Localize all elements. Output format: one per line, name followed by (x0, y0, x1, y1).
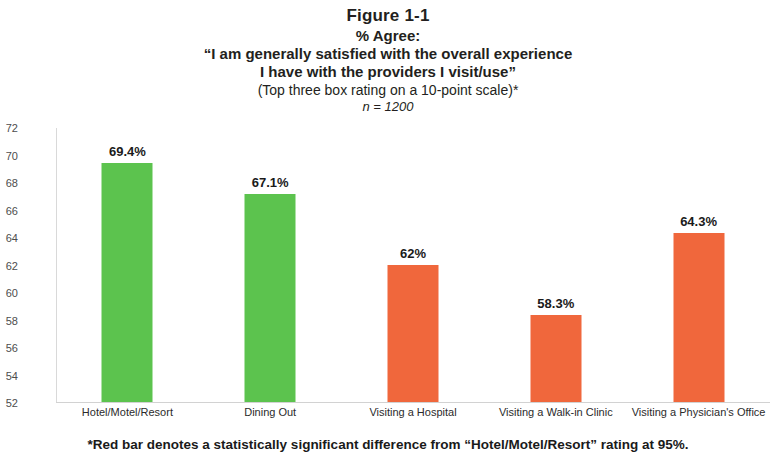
bar-slot: 67.1% (199, 127, 342, 402)
bar-column: 67.1% (199, 127, 342, 402)
x-axis-category-label: Dining Out (190, 406, 350, 418)
figure-subtitle: % Agree: (0, 27, 776, 45)
bar[interactable] (102, 163, 153, 402)
chart-footnote: *Red bar denotes a statistically signifi… (0, 437, 776, 452)
y-axis-tick-label: 56 (6, 342, 18, 354)
figure-sample-size: n = 1200 (0, 99, 776, 115)
figure-method-note: (Top three box rating on a 10-point scal… (0, 82, 776, 99)
x-axis-category-label: Hotel/Motel/Resort (47, 406, 207, 418)
bar[interactable] (530, 315, 581, 402)
y-axis: 5254565860626466687072 (0, 128, 46, 413)
y-axis-tick-label: 62 (6, 260, 18, 272)
y-axis-tick-label: 58 (6, 315, 18, 327)
chart-plot-area: 5254565860626466687072 69.4%67.1%62%58.3… (0, 128, 776, 413)
bar-value-label: 58.3% (537, 296, 574, 311)
bar-value-label: 62% (400, 246, 426, 261)
bar-slot: 64.3% (627, 127, 770, 402)
y-axis-tick-label: 68 (6, 177, 18, 189)
bar-value-label: 67.1% (252, 175, 289, 190)
figure-quote-line-2: I have with the providers I visit/use” (0, 63, 776, 81)
bar-slot: 69.4% (56, 127, 199, 402)
bar[interactable] (245, 194, 296, 402)
bar-value-label: 69.4% (109, 144, 146, 159)
y-axis-tick-label: 70 (6, 150, 18, 162)
bar-series: 69.4%67.1%62%58.3%64.3% (56, 128, 770, 403)
bar[interactable] (673, 233, 724, 402)
figure-quote-line-1: “I am generally satisfied with the overa… (0, 45, 776, 63)
y-axis-tick-label: 72 (6, 122, 18, 134)
y-axis-tick-label: 60 (6, 287, 18, 299)
bar-slot: 58.3% (484, 127, 627, 402)
x-axis-category-label: Visiting a Hospital (333, 406, 493, 418)
x-axis-category-label: Visiting a Physician's Office (619, 406, 776, 418)
x-axis-category-labels: Hotel/Motel/ResortDining OutVisiting a H… (56, 406, 770, 426)
bar-slot: 62% (342, 127, 485, 402)
bar-value-label: 64.3% (680, 214, 717, 229)
x-axis-category-label: Visiting a Walk-in Clinic (476, 406, 636, 418)
figure-title-block: Figure 1-1 % Agree: “I am generally sati… (0, 6, 776, 115)
y-axis-tick-label: 54 (6, 370, 18, 382)
bar-column: 62% (342, 127, 485, 402)
y-axis-tick-label: 66 (6, 205, 18, 217)
bar-column: 64.3% (627, 127, 770, 402)
figure-number: Figure 1-1 (0, 6, 776, 27)
y-axis-tick-label: 64 (6, 232, 18, 244)
bar[interactable] (387, 265, 438, 403)
y-axis-tick-label: 52 (6, 397, 18, 409)
bar-column: 69.4% (56, 127, 199, 402)
bar-column: 58.3% (484, 127, 627, 402)
